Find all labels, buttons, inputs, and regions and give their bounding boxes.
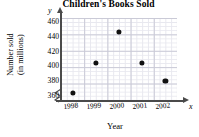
x-tick-label: 2000: [109, 101, 125, 111]
x-tick-label: 2001: [132, 101, 148, 111]
x-axis-tick-labels: 19981999200020012002: [0, 103, 199, 115]
x-tick-label: 1998: [63, 101, 79, 111]
y-axis-title: Number sold (in millions): [6, 13, 25, 97]
y-axis-title-line1: Number sold: [6, 13, 16, 97]
y-tick-label: 400: [37, 62, 59, 70]
y-tick-label: 420: [37, 48, 59, 56]
x-axis-title: Year: [70, 121, 160, 131]
y-tick-label: 360: [37, 92, 59, 100]
y-tick-label: 460: [37, 18, 59, 26]
y-tick-label: 380: [37, 77, 59, 85]
x-tick-label: 1999: [86, 101, 102, 111]
x-tick-label: 2002: [155, 101, 171, 111]
chart-figure: Children's Books Sold y x 46044042040038…: [0, 0, 199, 137]
chart-title: Children's Books Sold: [46, 0, 171, 10]
y-axis-tick-labels: 460440420400380360: [33, 0, 59, 137]
y-axis-title-line2: (in millions): [16, 13, 26, 97]
y-tick-label: 440: [37, 33, 59, 41]
plot-area: [61, 18, 177, 100]
